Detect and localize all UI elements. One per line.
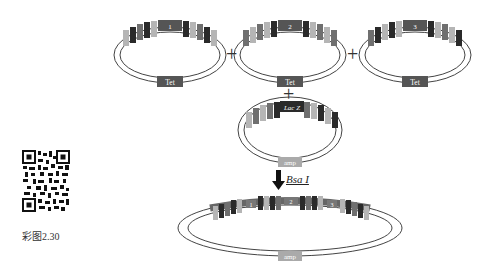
tet-marker-label: Tet — [165, 78, 175, 87]
svg-text:2: 2 — [288, 23, 292, 31]
enzyme-label: Bsa I — [286, 173, 309, 185]
svg-text:1: 1 — [250, 202, 253, 208]
plasmid-donor-1: 1 Tet — [114, 20, 226, 87]
plasmid-donor-3: 3 Tet — [359, 20, 471, 87]
svg-text:Tet: Tet — [410, 78, 420, 87]
svg-text:3: 3 — [413, 23, 417, 31]
svg-text:2: 2 — [290, 199, 293, 205]
plus-sign-2: + — [347, 44, 358, 64]
segment-1-label: 1 — [168, 23, 172, 31]
arrow-down-icon — [272, 170, 285, 190]
plasmid-donor-2: 2 Tet — [234, 20, 346, 87]
figure-caption: 彩图2.30 — [22, 228, 60, 243]
plus-sign-3: + — [283, 84, 294, 104]
cloning-diagram: 1 Tet 2 Tet 3 T — [0, 0, 490, 270]
plasmid-product: 1 2 3 amp — [178, 196, 402, 261]
svg-text:Lac Z: Lac Z — [283, 104, 300, 112]
svg-text:amp: amp — [284, 159, 297, 167]
svg-text:3: 3 — [331, 202, 334, 208]
plasmid-acceptor: Lac Z amp — [238, 97, 342, 167]
svg-text:amp: amp — [284, 253, 297, 261]
qr-code — [22, 150, 70, 212]
plus-sign-1: + — [226, 44, 237, 64]
